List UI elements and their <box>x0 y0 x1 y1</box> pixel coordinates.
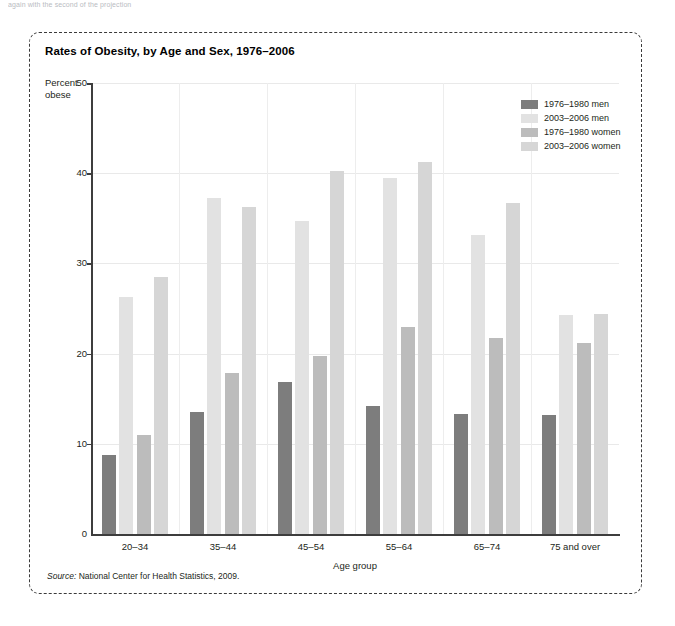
y-tick-label: 50 <box>65 77 87 88</box>
legend-swatch <box>521 100 538 109</box>
source-label: Source: <box>47 571 76 581</box>
bar <box>401 327 415 534</box>
bar-group <box>102 83 169 534</box>
bar <box>242 207 256 534</box>
y-axis-line <box>91 83 93 535</box>
x-tick-label: 55–64 <box>355 541 443 552</box>
bar <box>154 277 168 534</box>
x-tick-label: 45–54 <box>267 541 355 552</box>
bar <box>489 338 503 534</box>
legend-swatch <box>521 114 538 123</box>
y-tick-mark <box>87 173 92 175</box>
bar <box>295 221 309 534</box>
y-tick-label: 20 <box>65 348 87 359</box>
y-tick-label: 40 <box>65 167 87 178</box>
figure-container: Rates of Obesity, by Age and Sex, 1976–2… <box>29 32 642 594</box>
chart-legend: 1976–1980 men2003–2006 men1976–1980 wome… <box>521 98 641 154</box>
legend-item: 1976–1980 men <box>521 98 641 111</box>
bar <box>383 178 397 534</box>
legend-label: 2003–2006 men <box>544 113 609 123</box>
legend-swatch <box>521 142 538 151</box>
y-tick-mark <box>87 444 92 446</box>
y-tick-mark <box>87 263 92 265</box>
source-note: Source: National Center for Health Stati… <box>47 571 239 581</box>
legend-item: 1976–1980 women <box>521 126 641 139</box>
legend-label: 1976–1980 women <box>544 127 621 137</box>
legend-label: 1976–1980 men <box>544 99 609 109</box>
x-tick-label: 20–34 <box>91 541 179 552</box>
bar-group <box>454 83 521 534</box>
bar <box>506 203 520 534</box>
bar <box>542 415 556 534</box>
gridline-vertical <box>267 83 268 534</box>
x-tick-label: 75 and over <box>531 541 619 552</box>
bar <box>330 171 344 534</box>
gridline-vertical <box>179 83 180 534</box>
bar-group <box>278 83 345 534</box>
bar <box>278 382 292 534</box>
legend-item: 2003–2006 women <box>521 140 641 153</box>
bar <box>190 412 204 534</box>
bar <box>559 315 573 534</box>
bar <box>207 198 221 534</box>
y-tick-label: 30 <box>65 257 87 268</box>
x-axis-line <box>91 534 620 536</box>
bar <box>418 162 432 534</box>
legend-item: 2003–2006 men <box>521 112 641 125</box>
bar <box>577 343 591 534</box>
bar <box>594 314 608 534</box>
bar <box>454 414 468 534</box>
page-top-clipped-text: again with the second of the projection <box>8 0 308 9</box>
bar-group <box>366 83 433 534</box>
gridline-vertical <box>443 83 444 534</box>
x-tick-label: 35–44 <box>179 541 267 552</box>
bar <box>225 373 239 534</box>
bar <box>366 406 380 534</box>
x-tick-label: 65–74 <box>443 541 531 552</box>
bar-group <box>190 83 257 534</box>
y-tick-label: 0 <box>65 528 87 539</box>
legend-swatch <box>521 128 538 137</box>
y-tick-mark <box>87 354 92 356</box>
bar <box>119 297 133 534</box>
bar-chart: Percent obese 01020304050 20–3435–4445–5… <box>30 33 643 595</box>
y-axis-ticks: 01020304050 <box>61 83 87 534</box>
y-tick-label: 10 <box>65 438 87 449</box>
y-tick-mark <box>87 83 92 85</box>
bar <box>137 435 151 534</box>
gridline-vertical <box>355 83 356 534</box>
bar <box>471 235 485 534</box>
x-axis-label: Age group <box>91 560 619 571</box>
source-text: National Center for Health Statistics, 2… <box>79 571 240 581</box>
legend-label: 2003–2006 women <box>544 141 621 151</box>
bar <box>313 356 327 534</box>
bar <box>102 455 116 534</box>
